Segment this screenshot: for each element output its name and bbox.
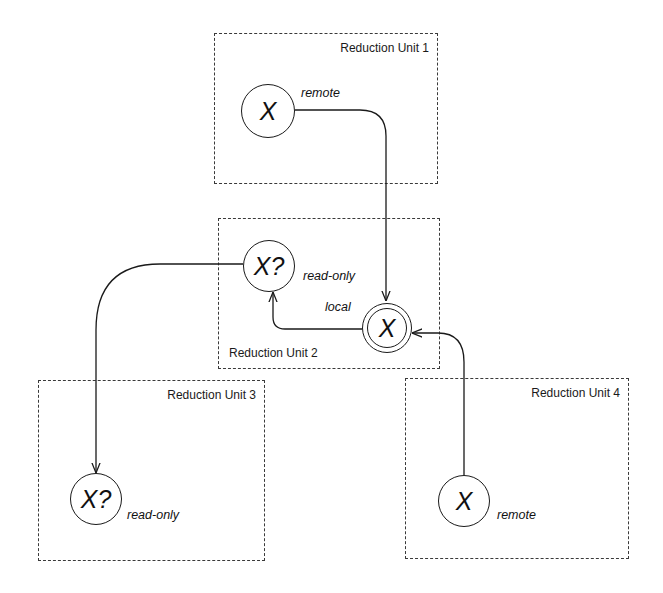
edge-ru2-readonly-to-ru3-readonly — [96, 264, 243, 473]
node-ru2-local-x: X — [362, 303, 412, 353]
node-ru3-readonly-x: X? — [70, 473, 122, 525]
node-symbol: X — [456, 489, 473, 514]
node-symbol: X? — [81, 487, 112, 512]
node-label-read-only: read-only — [303, 269, 355, 283]
node-label-remote: remote — [301, 86, 340, 100]
node-label-read-only: read-only — [127, 508, 179, 522]
diagram-canvas: Reduction Unit 1 Reduction Unit 2 Reduct… — [0, 0, 663, 593]
node-label-remote: remote — [497, 508, 536, 522]
node-label-local: local — [325, 300, 351, 314]
node-ru2-readonly-x: X? — [243, 240, 295, 292]
node-ru4-remote-x: X — [438, 475, 490, 527]
edge-ru4-to-ru2-local — [412, 333, 464, 475]
node-symbol: X? — [254, 254, 285, 279]
node-symbol: X — [379, 316, 396, 341]
node-symbol: X — [260, 99, 277, 124]
node-ru1-remote-x: X — [241, 84, 295, 138]
